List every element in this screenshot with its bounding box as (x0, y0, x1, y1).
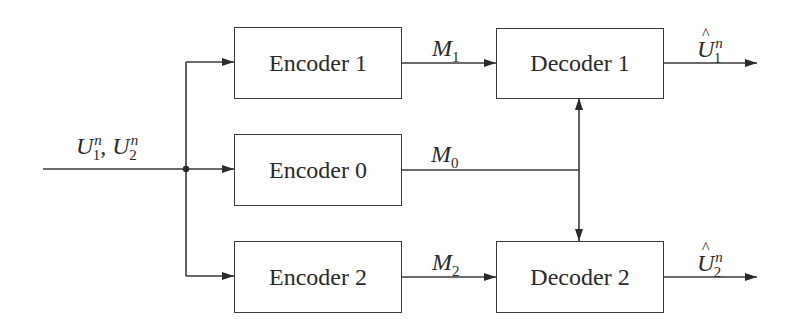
output-2-label: Un2 (697, 250, 721, 280)
m2-label: M2 (432, 250, 460, 279)
m0-label: M0 (431, 142, 459, 171)
m1-label: M1 (432, 36, 460, 65)
block-diagram: Encoder 1 Encoder 0 Encoder 2 Decoder 1 … (0, 0, 794, 336)
junction-dot (183, 166, 189, 172)
input-label: Un1, Un2 (76, 133, 137, 163)
encoder-2-block: Encoder 2 (234, 241, 402, 313)
encoder-0-block: Encoder 0 (234, 134, 402, 206)
decoder-1-block: Decoder 1 (496, 28, 664, 99)
decoder-2-block: Decoder 2 (496, 241, 664, 313)
output-1-label: Un1 (697, 36, 721, 66)
encoder-1-block: Encoder 1 (234, 27, 402, 99)
